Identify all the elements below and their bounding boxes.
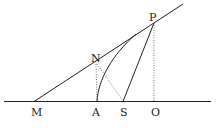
label-M: M: [31, 106, 42, 119]
line-SP: [123, 23, 154, 102]
label-S: S: [120, 106, 128, 119]
geometry-diagram: P N M A S O: [0, 0, 219, 128]
tangent-line: [34, 4, 183, 102]
dotted-NA: [96, 64, 97, 101]
label-P: P: [149, 11, 157, 24]
curve-AP: [97, 34, 136, 102]
label-N: N: [91, 52, 101, 65]
label-A: A: [91, 106, 101, 119]
label-O: O: [151, 106, 160, 119]
